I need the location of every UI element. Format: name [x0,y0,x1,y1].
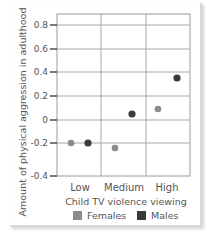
y-tick-label: 0 [42,115,48,125]
data-point-male-low [84,139,91,146]
x-category-labels: Low Medium High [70,182,178,193]
y-tick-label: 0.4 [34,67,49,77]
x-category-label-medium: Medium [104,182,144,193]
x-category-label-low: Low [70,182,90,193]
data-point-female-high [155,106,162,113]
legend: Females Males [73,210,179,221]
data-point-male-high [173,74,180,81]
y-tick-marks [50,25,57,176]
legend-swatch-males [137,211,146,220]
y-tick-label: -0.2 [30,138,48,148]
legend-label-males: Males [151,210,179,221]
y-tick-label: 0.8 [34,20,49,30]
legend-swatch-females [73,211,82,220]
y-tick-labels: 0.8 0.6 0.4 0.2 0 -0.2 -0.4 [30,20,48,181]
y-axis-title: Amount of physical aggression in adultho… [17,8,28,217]
data-point-female-medium [112,145,119,152]
x-category-label-high: High [156,182,179,193]
legend-label-females: Females [87,210,126,221]
data-point-male-medium [128,110,135,117]
y-tick-label: 0.2 [34,91,48,101]
x-axis-title: Child TV violence viewing [65,196,187,207]
scatter-chart: 0.8 0.6 0.4 0.2 0 -0.2 -0.4 Amount of ph… [0,0,210,233]
data-point-female-low [68,140,75,147]
y-tick-label: -0.4 [30,171,48,181]
plot-area [57,14,190,176]
y-tick-label: 0.6 [34,44,49,54]
